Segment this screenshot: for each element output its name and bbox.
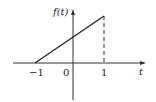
signal-plot: f(t) t −1 0 1: [0, 0, 156, 102]
tick-label-1: 1: [101, 67, 107, 78]
x-axis-arrow-icon: [140, 61, 146, 65]
ramp-line: [35, 16, 104, 63]
y-axis-label: f(t): [52, 6, 69, 17]
tick-label-neg1: −1: [29, 67, 44, 78]
tick-label-0: 0: [63, 67, 69, 78]
x-axis-label: t: [139, 66, 144, 77]
y-axis-arrow-icon: [71, 9, 75, 15]
